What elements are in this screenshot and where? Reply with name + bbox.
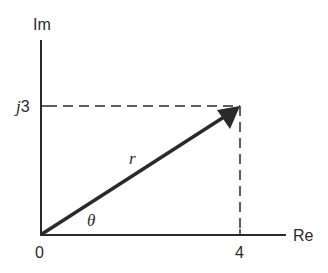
imag-tick-value: 3 [21,98,30,115]
angle-label-theta: θ [87,211,95,230]
magnitude-label-r: r [129,149,136,168]
vector-r [42,117,224,234]
imag-tick-label: j3 [14,97,30,116]
imaginary-axis-label: Im [33,16,51,33]
origin-label: 0 [35,244,44,261]
real-axis-label: Re [293,227,314,244]
phasor-diagram: Im Re 0 4 j3 r θ [0,0,328,273]
real-tick-label: 4 [235,244,244,261]
